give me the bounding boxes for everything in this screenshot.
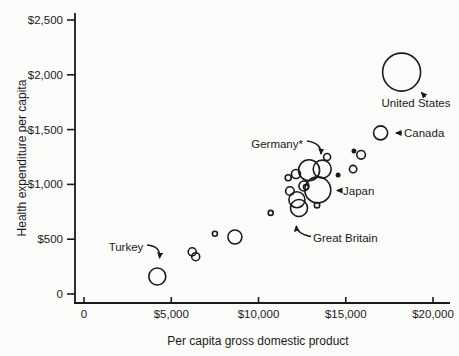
y-tick-label: $2,000 (28, 69, 63, 81)
bubble (228, 230, 242, 244)
germany-label: Germany* (251, 138, 303, 150)
bubble-canada (374, 126, 388, 140)
x-tick-label: $20,000 (412, 308, 454, 320)
bubble-germany (313, 160, 331, 178)
annotation-germany: Germany* (251, 138, 321, 154)
y-tick-label: $500 (37, 233, 63, 245)
great-britain-arrow (296, 226, 311, 237)
x-tick-label: $10,000 (238, 308, 280, 320)
annotation-turkey: Turkey (109, 241, 160, 258)
y-tick-label: 0 (57, 288, 63, 300)
bubble (349, 165, 356, 172)
annotation-canada: Canada (396, 127, 445, 139)
bubble-turkey (149, 268, 166, 285)
bubble (286, 187, 295, 196)
y-tick-label: $2,500 (28, 14, 63, 26)
bubbles (149, 53, 421, 285)
turkey-arrow (147, 245, 160, 258)
annotation-japan: Japan (337, 185, 374, 197)
x-tick-label: $5,000 (154, 308, 189, 320)
x-ticks: 0$5,000$10,000$15,000$20,000 (81, 297, 454, 320)
japan-label: Japan (343, 185, 374, 197)
united-states-label: United States (381, 97, 450, 109)
chart-page: 0$500$1,000$1,500$2,000$2,500 0$5,000$10… (0, 0, 459, 356)
germany-arrow (307, 141, 321, 154)
x-tick-label: $15,000 (325, 308, 367, 320)
bubble (352, 149, 355, 152)
scatter-chart: 0$500$1,000$1,500$2,000$2,500 0$5,000$10… (0, 0, 459, 356)
bubble (324, 154, 331, 161)
y-ticks: 0$500$1,000$1,500$2,000$2,500 (28, 14, 75, 300)
y-tick-label: $1,500 (28, 124, 63, 136)
bubble (336, 173, 339, 176)
x-axis-title: Per capita gross domestic product (167, 334, 349, 348)
turkey-label: Turkey (109, 241, 144, 253)
axes: 0$500$1,000$1,500$2,000$2,500 0$5,000$10… (28, 13, 454, 320)
annotation-united-states: United States (381, 93, 450, 110)
annotation-great-britain: Great Britain (296, 226, 377, 244)
bubble (357, 151, 366, 160)
y-tick-label: $1,000 (28, 178, 63, 190)
bubble-united-states (383, 53, 421, 91)
bubble (268, 210, 273, 215)
bubble (304, 185, 309, 190)
bubble (285, 175, 291, 181)
y-axis-title: Health expenditure per capita (15, 79, 29, 236)
bubble (212, 231, 217, 236)
x-tick-label: 0 (81, 308, 87, 320)
great-britain-label: Great Britain (313, 232, 378, 244)
canada-label: Canada (404, 127, 445, 139)
